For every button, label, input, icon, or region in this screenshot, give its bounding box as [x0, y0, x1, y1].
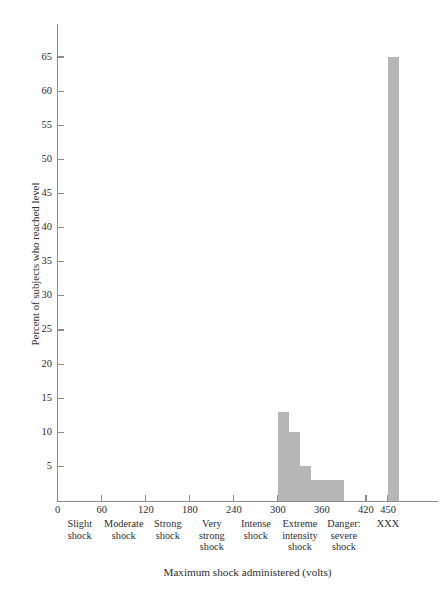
x-tick-label: 240	[214, 504, 254, 516]
y-tick-label-wrap: 5	[0, 461, 52, 472]
y-tick-mark	[58, 159, 64, 160]
x-tick-label: 300	[258, 504, 298, 516]
y-tick-label-wrap: 10	[0, 427, 52, 438]
y-tick-mark	[58, 295, 64, 296]
x-tick-label: 180	[170, 504, 210, 516]
y-tick-label: 65	[30, 52, 52, 63]
histogram-bar	[311, 480, 344, 500]
y-tick-label-wrap: 35	[0, 256, 52, 267]
histogram-bar	[289, 432, 300, 500]
x-tick-mark	[189, 495, 190, 501]
x-category-label: XXX	[359, 518, 417, 530]
x-tick-label: 360	[302, 504, 342, 516]
y-tick-label-wrap: 20	[0, 359, 52, 370]
y-tick-mark	[58, 125, 64, 126]
x-tick-label: 120	[126, 504, 166, 516]
x-tick-label: 60	[82, 504, 122, 516]
y-tick-label-wrap: 40	[0, 222, 52, 233]
y-tick-mark	[58, 261, 64, 262]
x-tick-mark	[145, 495, 146, 501]
y-tick-mark	[58, 466, 64, 467]
histogram-bar	[278, 412, 289, 501]
y-tick-label-wrap: 15	[0, 393, 52, 404]
y-tick-label-wrap: 55	[0, 120, 52, 131]
y-tick-label: 55	[30, 120, 52, 131]
histogram-bar	[388, 57, 399, 501]
x-axis-line	[57, 501, 438, 502]
y-tick-mark	[58, 91, 64, 92]
y-tick-mark	[58, 432, 64, 433]
y-tick-mark	[58, 193, 64, 194]
x-tick-mark	[233, 495, 234, 501]
y-tick-label: 10	[30, 427, 52, 438]
y-tick-label-wrap: 25	[0, 324, 52, 335]
x-tick-mark	[365, 495, 366, 501]
y-axis-line	[57, 24, 58, 502]
chart-figure: 5101520253035404550556065 06012018024030…	[0, 0, 445, 594]
x-tick-label: 450	[368, 504, 408, 516]
y-tick-label: 60	[30, 86, 52, 97]
y-tick-label-wrap: 60	[0, 86, 52, 97]
histogram-bar	[300, 466, 311, 500]
y-tick-label: 15	[30, 393, 52, 404]
y-tick-mark	[58, 329, 64, 330]
x-axis-title: Maximum shock administered (volts)	[57, 566, 438, 578]
y-tick-mark	[58, 398, 64, 399]
y-tick-mark	[58, 56, 64, 57]
y-tick-label-wrap: 50	[0, 154, 52, 165]
y-tick-label-wrap: 65	[0, 52, 52, 63]
y-tick-mark	[58, 364, 64, 365]
x-tick-mark	[101, 495, 102, 501]
x-tick-mark	[57, 495, 58, 501]
y-tick-label-wrap: 30	[0, 290, 52, 301]
y-axis-title: Percent of subjects who reached level	[29, 134, 41, 394]
y-tick-label: 5	[30, 461, 52, 472]
y-tick-mark	[58, 227, 64, 228]
y-tick-label-wrap: 45	[0, 188, 52, 199]
x-tick-label: 0	[38, 504, 78, 516]
